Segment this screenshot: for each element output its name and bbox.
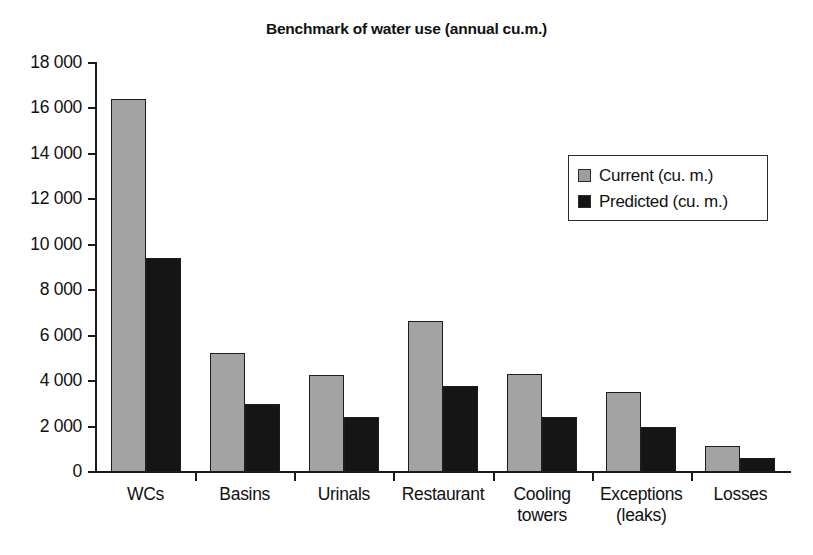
bar-current xyxy=(606,392,641,472)
legend-item: Current (cu. m.) xyxy=(578,162,759,188)
legend-swatch-current xyxy=(578,169,591,182)
bar-predicted xyxy=(245,404,280,472)
y-axis-tick-label: 8 000 xyxy=(40,279,82,299)
bar-chart: Benchmark of water use (annual cu.m.) 02… xyxy=(0,0,813,555)
bar-predicted xyxy=(344,417,379,472)
y-axis-tick-mark xyxy=(88,289,96,291)
legend-swatch-predicted xyxy=(578,195,591,208)
x-axis-category-label: Restaurant xyxy=(385,484,500,505)
x-axis-category-label: Losses xyxy=(683,484,798,505)
x-axis-category-label: Urinals xyxy=(286,484,401,505)
bar-current xyxy=(111,99,146,472)
y-axis-tick-mark xyxy=(88,471,96,473)
bar-current xyxy=(705,446,740,472)
x-axis-tick-mark xyxy=(691,472,693,481)
x-axis-tick-mark xyxy=(195,472,197,481)
bar-predicted xyxy=(740,458,775,472)
x-axis-tick-mark xyxy=(592,472,594,481)
chart-title: Benchmark of water use (annual cu.m.) xyxy=(0,20,813,38)
bar-predicted xyxy=(542,417,577,472)
y-axis-tick-mark xyxy=(88,380,96,382)
legend-label: Current (cu. m.) xyxy=(599,166,713,185)
y-axis-tick-mark xyxy=(88,107,96,109)
legend-item: Predicted (cu. m.) xyxy=(578,188,759,214)
bar-current xyxy=(408,321,443,472)
x-axis-tick-mark xyxy=(294,472,296,481)
y-axis-tick-label: 4 000 xyxy=(40,370,82,390)
y-axis-tick-label: 2 000 xyxy=(40,416,82,436)
x-axis-tick-mark xyxy=(393,472,395,481)
y-axis-tick-label: 12 000 xyxy=(30,188,82,208)
bar-current xyxy=(210,353,245,472)
x-axis-category-label: Exceptions (leaks) xyxy=(584,484,699,526)
y-axis-tick-mark xyxy=(88,244,96,246)
x-axis-category-label: Basins xyxy=(187,484,302,505)
bar-predicted xyxy=(443,386,478,472)
plot-area xyxy=(96,63,790,472)
y-axis-tick-mark xyxy=(88,426,96,428)
y-axis-tick-mark xyxy=(88,198,96,200)
y-axis-tick-label: 14 000 xyxy=(30,143,82,163)
bar-current xyxy=(507,374,542,472)
bar-current xyxy=(309,375,344,472)
bar-predicted xyxy=(146,258,181,472)
y-axis-tick-mark xyxy=(88,62,96,64)
bar-predicted xyxy=(641,427,676,472)
y-axis-tick-label: 0 xyxy=(73,461,82,481)
y-axis-tick-label: 18 000 xyxy=(30,52,82,72)
y-axis-tick-label: 16 000 xyxy=(30,97,82,117)
x-axis-category-label: Cooling towers xyxy=(485,484,600,526)
y-axis-tick-label: 10 000 xyxy=(30,234,82,254)
y-axis-tick-mark xyxy=(88,153,96,155)
y-axis-tick-mark xyxy=(88,335,96,337)
legend-label: Predicted (cu. m.) xyxy=(599,192,728,211)
x-axis-tick-mark xyxy=(493,472,495,481)
x-axis-category-label: WCs xyxy=(88,484,203,505)
y-axis-tick-label: 6 000 xyxy=(40,325,82,345)
chart-legend: Current (cu. m.)Predicted (cu. m.) xyxy=(568,155,768,221)
